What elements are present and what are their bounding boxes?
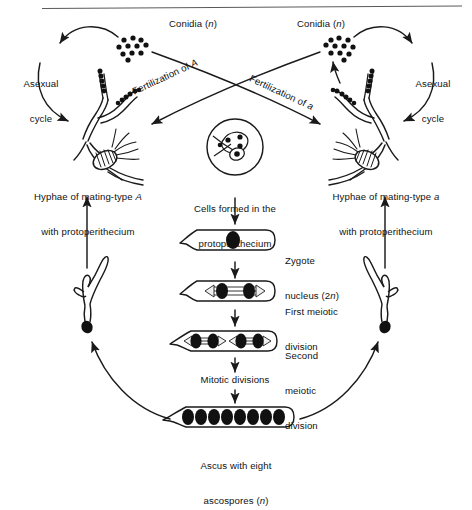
asexual-arc-left-top [60, 27, 118, 43]
zygote-line1: Zygote [285, 255, 385, 267]
cells-formed-line2: protoperithecium [167, 238, 303, 250]
arrow-ascus-to-left-hyphae [92, 342, 170, 419]
asexual-left-line1: Asexual [8, 78, 74, 90]
first-meiotic-nucleus-2 [243, 283, 255, 299]
second-meiotic-line2: meiotic [285, 385, 385, 397]
second-meiotic-nucleus-2 [207, 333, 218, 348]
mating-type-A: A [135, 191, 142, 202]
fertilization-of-a-arrow [152, 52, 320, 124]
label-hyphae-left: Hyphae of mating-type A with protoperith… [8, 168, 168, 249]
second-meiotic-nucleus-1 [190, 333, 201, 348]
hyphae-left-line1: Hyphae of mating-type A [8, 191, 168, 203]
label-ascus: Ascus with eight ascospores (n) [166, 437, 306, 510]
label-asexual-cycle-right: Asexual cycle [400, 55, 466, 136]
conidia-cloud-left [116, 35, 148, 62]
fertilization-of-A-arrow [152, 52, 320, 124]
top-rule [42, 6, 462, 9]
hyphae-right-line1: Hyphae of mating-type a [306, 191, 466, 203]
ascus-line1: Ascus with eight [166, 460, 306, 472]
first-meiotic-line1: First meiotic [285, 306, 385, 318]
second-meiotic-line3: division [285, 420, 385, 432]
label-second-meiotic-division: Second meiotic division [285, 327, 385, 443]
asexual-left-line2: cycle [8, 113, 74, 125]
label-cells-formed: Cells formed in the protoperithecium [167, 180, 303, 261]
asexual-right-line1: Asexual [400, 78, 466, 90]
hyphae-left-line2: with protoperithecium [8, 226, 168, 238]
first-meiotic-spindle [205, 285, 265, 297]
conidia-cloud-right [323, 35, 355, 62]
ascospore-left [80, 319, 95, 335]
label-mitotic-divisions: Mitotic divisions [170, 374, 300, 386]
germinating-ascospore-left [74, 257, 108, 322]
asexual-right-line2: cycle [400, 113, 466, 125]
label-conidia-right: Conidia (n) [272, 18, 370, 30]
label-conidia-left: Conidia (n) [144, 18, 242, 30]
conidiation-arrow-right [333, 62, 340, 83]
label-asexual-cycle-left: Asexual cycle [8, 55, 74, 136]
mating-type-a: a [434, 191, 439, 202]
cells-formed-line1: Cells formed in the [167, 203, 303, 215]
second-meiotic-line1: Second [285, 350, 385, 362]
second-meiotic-nucleus-4 [252, 333, 263, 348]
ascus-line2: ascospores (n) [166, 495, 306, 507]
second-meiotic-nucleus-3 [235, 333, 246, 348]
first-meiotic-nucleus-1 [216, 283, 228, 299]
